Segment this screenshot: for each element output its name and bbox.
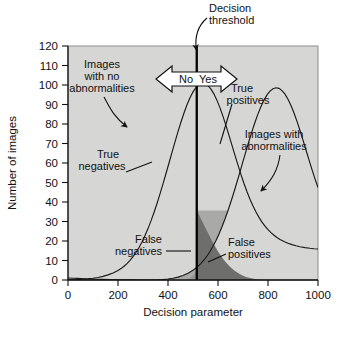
x-tick-label-1000: 1000 [305,289,331,301]
y-tick-label-30: 30 [45,216,58,228]
false-positives-line2: positives [228,248,271,260]
false-positives-line1: False [228,236,255,248]
y-tick-label-100: 100 [39,79,58,91]
roc-decision-threshold-figure: 0 10 20 30 40 50 60 70 80 90 100 110 120… [0,0,344,337]
y-tick-label-120: 120 [39,40,58,52]
y-tick-label-40: 40 [45,196,58,208]
true-negatives-line1: True [97,148,119,160]
x-tick-label-200: 200 [108,289,127,301]
x-axis-title: Decision parameter [143,306,243,318]
images-with-abnormalities-line1: Images with [245,128,304,140]
y-axis-title: Number of images [6,116,18,210]
y-tick-label-10: 10 [45,255,58,267]
images-with-abnormalities-line2: abnormalities [241,140,307,152]
x-tick-label-600: 600 [208,289,227,301]
x-tick-label-0: 0 [65,289,71,301]
false-negatives-line1: False [135,233,162,245]
y-tick-label-60: 60 [45,157,58,169]
decision-threshold-label-line2: threshold [209,14,254,26]
decision-threshold-annotation: Decision threshold [196,2,254,50]
images-no-abnormalities-line2: with no [84,70,120,82]
y-tick-label-50: 50 [45,177,58,189]
decision-banner-no-label: No [179,73,193,85]
chart-canvas: 0 10 20 30 40 50 60 70 80 90 100 110 120… [0,0,344,337]
y-tick-label-80: 80 [45,118,58,130]
y-tick-label-0: 0 [52,274,58,286]
y-tick-label-20: 20 [45,235,58,247]
x-axis: 0 200 400 600 800 1000 Decision paramete… [65,280,331,318]
x-tick-label-800: 800 [258,289,277,301]
y-tick-label-70: 70 [45,138,58,150]
decision-threshold-label-line1: Decision [209,2,251,14]
true-negatives-line2: negatives [78,160,126,172]
images-no-abnormalities-line3: abnormalities [69,82,135,94]
decision-threshold-arrow [196,18,207,50]
x-tick-label-400: 400 [158,289,177,301]
y-axis-ticks [62,46,68,280]
y-tick-label-110: 110 [40,60,58,72]
images-no-abnormalities-line1: Images [84,58,121,70]
x-axis-ticks [68,280,318,286]
true-positives-line2: positives [227,94,270,106]
y-axis: 0 10 20 30 40 50 60 70 80 90 100 110 120… [6,40,68,286]
y-tick-label-90: 90 [45,99,58,111]
true-positives-line1: True [231,82,253,94]
decision-banner-yes-label: Yes [199,73,217,85]
false-negatives-line2: negatives [115,245,163,257]
